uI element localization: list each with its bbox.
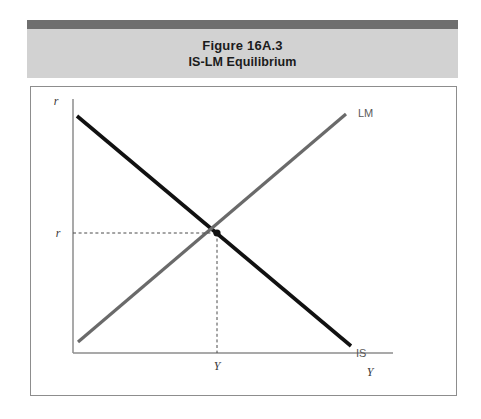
y-axis-tick-label-r: r: [56, 226, 61, 240]
figure-number: Figure 16A.3: [202, 37, 282, 54]
lm-curve-label: LM: [358, 107, 373, 119]
is-lm-chart: r Y r Y LM IS: [31, 87, 456, 395]
equilibrium-point: [213, 229, 220, 236]
chart-frame: r Y r Y LM IS: [30, 86, 457, 396]
x-axis-label: Y: [367, 365, 375, 379]
figure-container: Figure 16A.3 IS-LM Equilibrium r Y: [0, 0, 481, 419]
is-curve: [77, 116, 351, 346]
banner-text-group: Figure 16A.3 IS-LM Equilibrium: [27, 29, 458, 78]
figure-title-banner: Figure 16A.3 IS-LM Equilibrium: [27, 20, 458, 78]
y-axis-label: r: [54, 94, 59, 108]
banner-accent-bar: [27, 20, 458, 29]
figure-subtitle: IS-LM Equilibrium: [189, 54, 297, 70]
is-curve-label: IS: [356, 347, 366, 359]
x-axis-tick-label-Y: Y: [214, 359, 222, 373]
